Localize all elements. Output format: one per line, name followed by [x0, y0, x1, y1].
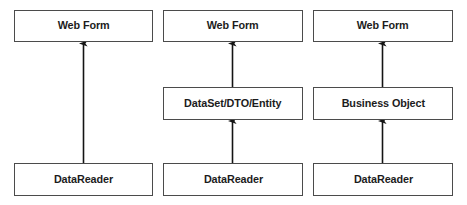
node-label: Web Form: [58, 20, 110, 32]
node-col1-datareader: DataReader: [14, 163, 153, 196]
node-col3-business-object: Business Object: [313, 87, 453, 120]
node-col2-datareader: DataReader: [163, 163, 303, 196]
node-col3-web-form: Web Form: [313, 10, 453, 42]
node-label: DataReader: [54, 174, 113, 186]
node-label: Web Form: [357, 20, 409, 32]
node-label: Business Object: [341, 98, 424, 110]
node-col1-web-form: Web Form: [14, 10, 153, 42]
node-label: Web Form: [207, 20, 259, 32]
node-label: DataReader: [353, 174, 412, 186]
node-col2-web-form: Web Form: [163, 10, 303, 42]
architecture-diagram: Web Form DataReader Web Form DataSet/DTO…: [0, 0, 467, 205]
node-label: DataSet/DTO/Entity: [184, 98, 281, 110]
node-col2-dataset-dto-entity: DataSet/DTO/Entity: [163, 87, 303, 120]
node-col3-datareader: DataReader: [313, 163, 453, 196]
node-label: DataReader: [203, 174, 262, 186]
